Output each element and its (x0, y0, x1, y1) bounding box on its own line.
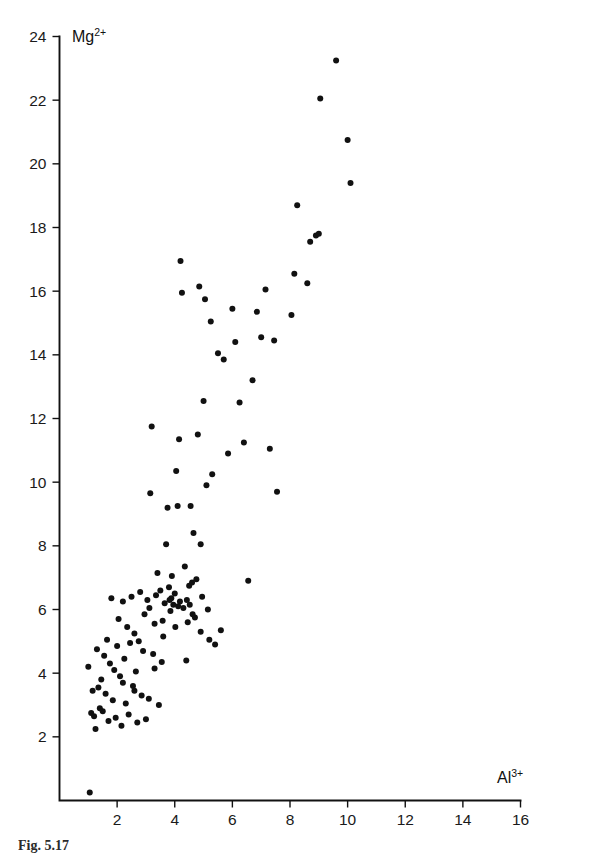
data-point (215, 350, 221, 356)
data-point (183, 657, 189, 663)
data-point (127, 640, 133, 646)
y-axis-label-superscript: 2+ (94, 26, 106, 38)
data-points-layer (85, 57, 353, 795)
x-tick-label: 4 (170, 811, 179, 828)
data-point (229, 306, 235, 312)
x-tick-label: 10 (339, 811, 357, 828)
data-point (291, 271, 297, 277)
data-point (175, 503, 181, 509)
data-point (258, 334, 264, 340)
data-point (98, 677, 104, 683)
data-point (169, 573, 175, 579)
data-point (120, 599, 126, 605)
x-axis-ticks (117, 801, 520, 808)
data-point (208, 318, 214, 324)
data-point (133, 669, 139, 675)
y-tick-label: 12 (29, 410, 46, 427)
data-point (90, 688, 96, 694)
y-tick-label: 10 (29, 474, 47, 491)
data-point (198, 541, 204, 547)
data-point (221, 357, 227, 363)
data-point (195, 431, 201, 437)
data-point (345, 137, 351, 143)
data-point (129, 594, 135, 600)
data-point (95, 684, 101, 690)
data-point (120, 680, 126, 686)
y-tick-label: 24 (29, 28, 47, 45)
data-point (146, 696, 152, 702)
data-point (97, 705, 103, 711)
y-tick-label: 14 (29, 346, 47, 363)
data-point (154, 570, 160, 576)
data-point (241, 439, 247, 445)
data-point (152, 665, 158, 671)
data-point (177, 599, 183, 605)
data-point (172, 591, 178, 597)
data-point (136, 638, 142, 644)
y-tick-label: 20 (29, 155, 47, 172)
data-point (196, 283, 202, 289)
data-point (190, 530, 196, 536)
data-point (188, 503, 194, 509)
y-tick-label: 4 (38, 665, 47, 682)
data-point (203, 482, 209, 488)
data-point (294, 202, 300, 208)
data-point (116, 616, 122, 622)
data-point (107, 661, 113, 667)
y-axis-ticks (53, 37, 60, 737)
x-axis-label-base: Al (497, 769, 511, 786)
y-axis-label: Mg2+ (72, 26, 106, 45)
data-point (245, 578, 251, 584)
data-point (218, 627, 224, 633)
y-tick-label: 2 (38, 728, 47, 745)
data-point (172, 624, 178, 630)
x-tick-label: 16 (512, 811, 529, 828)
data-point (160, 618, 166, 624)
x-tick-label: 6 (228, 811, 237, 828)
x-tick-label: 14 (454, 811, 472, 828)
data-point (153, 592, 159, 598)
data-point (165, 505, 171, 511)
data-point (144, 597, 150, 603)
data-point (232, 339, 238, 345)
data-point (176, 436, 182, 442)
data-point (178, 258, 184, 264)
data-point (131, 688, 137, 694)
axis-lines (60, 37, 521, 801)
data-point (288, 312, 294, 318)
data-point (187, 602, 193, 608)
data-point (160, 634, 166, 640)
data-point (147, 490, 153, 496)
data-point (304, 280, 310, 286)
data-point (348, 180, 354, 186)
data-point (185, 619, 191, 625)
x-axis-label-superscript: 3+ (511, 767, 523, 779)
x-tick-label: 12 (397, 811, 414, 828)
data-point (114, 643, 120, 649)
data-point (146, 605, 152, 611)
y-tick-label: 18 (29, 219, 46, 236)
data-point (143, 716, 149, 722)
y-axis-tick-labels: 24681012141618202224 (29, 28, 47, 745)
data-point (173, 468, 179, 474)
x-tick-label: 2 (113, 811, 122, 828)
data-point (168, 595, 174, 601)
data-point (212, 642, 218, 648)
data-point (94, 646, 100, 652)
data-point (110, 697, 116, 703)
data-point (123, 700, 129, 706)
data-point (156, 702, 162, 708)
figure-caption: Fig. 5.17 (18, 838, 69, 855)
data-point (93, 726, 99, 732)
data-point (190, 611, 196, 617)
data-point (134, 720, 140, 726)
data-point (157, 587, 163, 593)
data-point (209, 471, 215, 477)
data-point (113, 715, 119, 721)
figure-container: 24681012141618202224 246810121416 Mg2+ A… (0, 0, 601, 855)
data-point (201, 398, 207, 404)
y-tick-label: 6 (38, 601, 47, 618)
data-point (85, 664, 91, 670)
data-point (179, 290, 185, 296)
data-point (254, 309, 260, 315)
